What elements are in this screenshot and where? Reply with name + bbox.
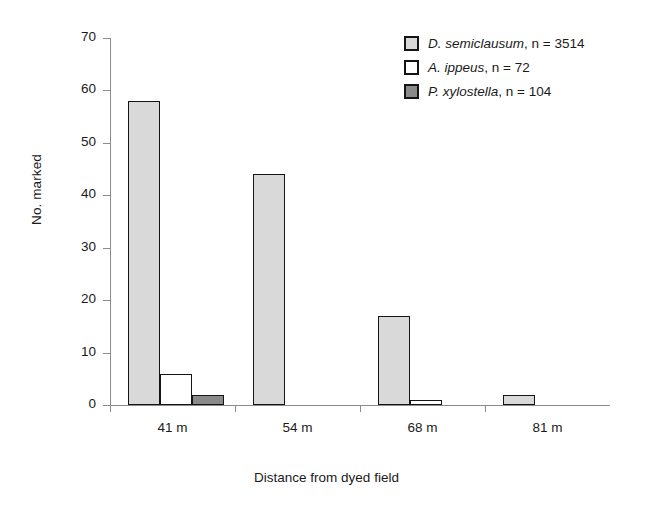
bar	[378, 316, 410, 405]
legend-item: P. xylostella, n = 104	[404, 79, 584, 103]
x-axis-tick-label: 68 m	[360, 420, 485, 435]
y-axis-tick-label: 40	[54, 186, 96, 201]
bar	[503, 395, 535, 405]
y-axis-tick-label: 50	[54, 134, 96, 149]
y-axis-tick-label: 30	[54, 239, 96, 254]
y-axis-tick-label: 60	[54, 81, 96, 96]
y-axis-tick-label: 20	[54, 291, 96, 306]
legend-sample-size: , n = 104	[498, 84, 551, 99]
x-axis-title: Distance from dyed field	[0, 470, 653, 485]
legend-sample-size: , n = 72	[484, 60, 529, 75]
legend-swatch-icon	[404, 84, 419, 99]
legend-item-label: D. semiclausum, n = 3514	[428, 36, 584, 51]
y-axis-tick	[103, 195, 110, 196]
y-axis-tick	[103, 300, 110, 301]
bar	[128, 101, 160, 405]
y-axis-tick	[103, 38, 110, 39]
y-axis-line	[110, 38, 111, 405]
legend-swatch-icon	[404, 36, 419, 51]
bar	[410, 400, 442, 405]
bar	[160, 374, 192, 405]
y-axis-tick-label: 10	[54, 344, 96, 359]
x-axis-tick	[235, 405, 236, 412]
x-axis-tick	[360, 405, 361, 412]
y-axis-tick-label: 70	[54, 29, 96, 44]
y-axis-tick-label: 0	[54, 396, 96, 411]
x-axis-tick	[485, 405, 486, 412]
legend-species-name: D. semiclausum	[428, 36, 524, 51]
legend-sample-size: , n = 3514	[524, 36, 584, 51]
legend-item: D. semiclausum, n = 3514	[404, 31, 584, 55]
legend-item-label: P. xylostella, n = 104	[428, 84, 551, 99]
x-axis-tick-label: 54 m	[235, 420, 360, 435]
y-axis-tick	[103, 248, 110, 249]
y-axis-tick	[103, 143, 110, 144]
legend-swatch-icon	[404, 60, 419, 75]
legend-species-name: P. xylostella	[428, 84, 498, 99]
legend-item: A. ippeus, n = 72	[404, 55, 584, 79]
x-axis-tick-label: 81 m	[485, 420, 610, 435]
x-axis-tick	[110, 405, 111, 412]
x-axis-line	[104, 405, 610, 406]
y-axis-tick	[103, 90, 110, 91]
y-axis-tick	[103, 405, 110, 406]
bar-chart-figure: No. marked 010203040506070 41 m54 m68 m8…	[0, 0, 653, 515]
bar	[253, 174, 285, 405]
y-axis-tick	[103, 353, 110, 354]
legend-item-label: A. ippeus, n = 72	[428, 60, 530, 75]
y-axis-title: No. marked	[29, 110, 44, 270]
chart-legend: D. semiclausum, n = 3514A. ippeus, n = 7…	[404, 31, 584, 103]
bar	[192, 395, 224, 405]
x-axis-tick-label: 41 m	[110, 420, 235, 435]
legend-species-name: A. ippeus	[428, 60, 484, 75]
